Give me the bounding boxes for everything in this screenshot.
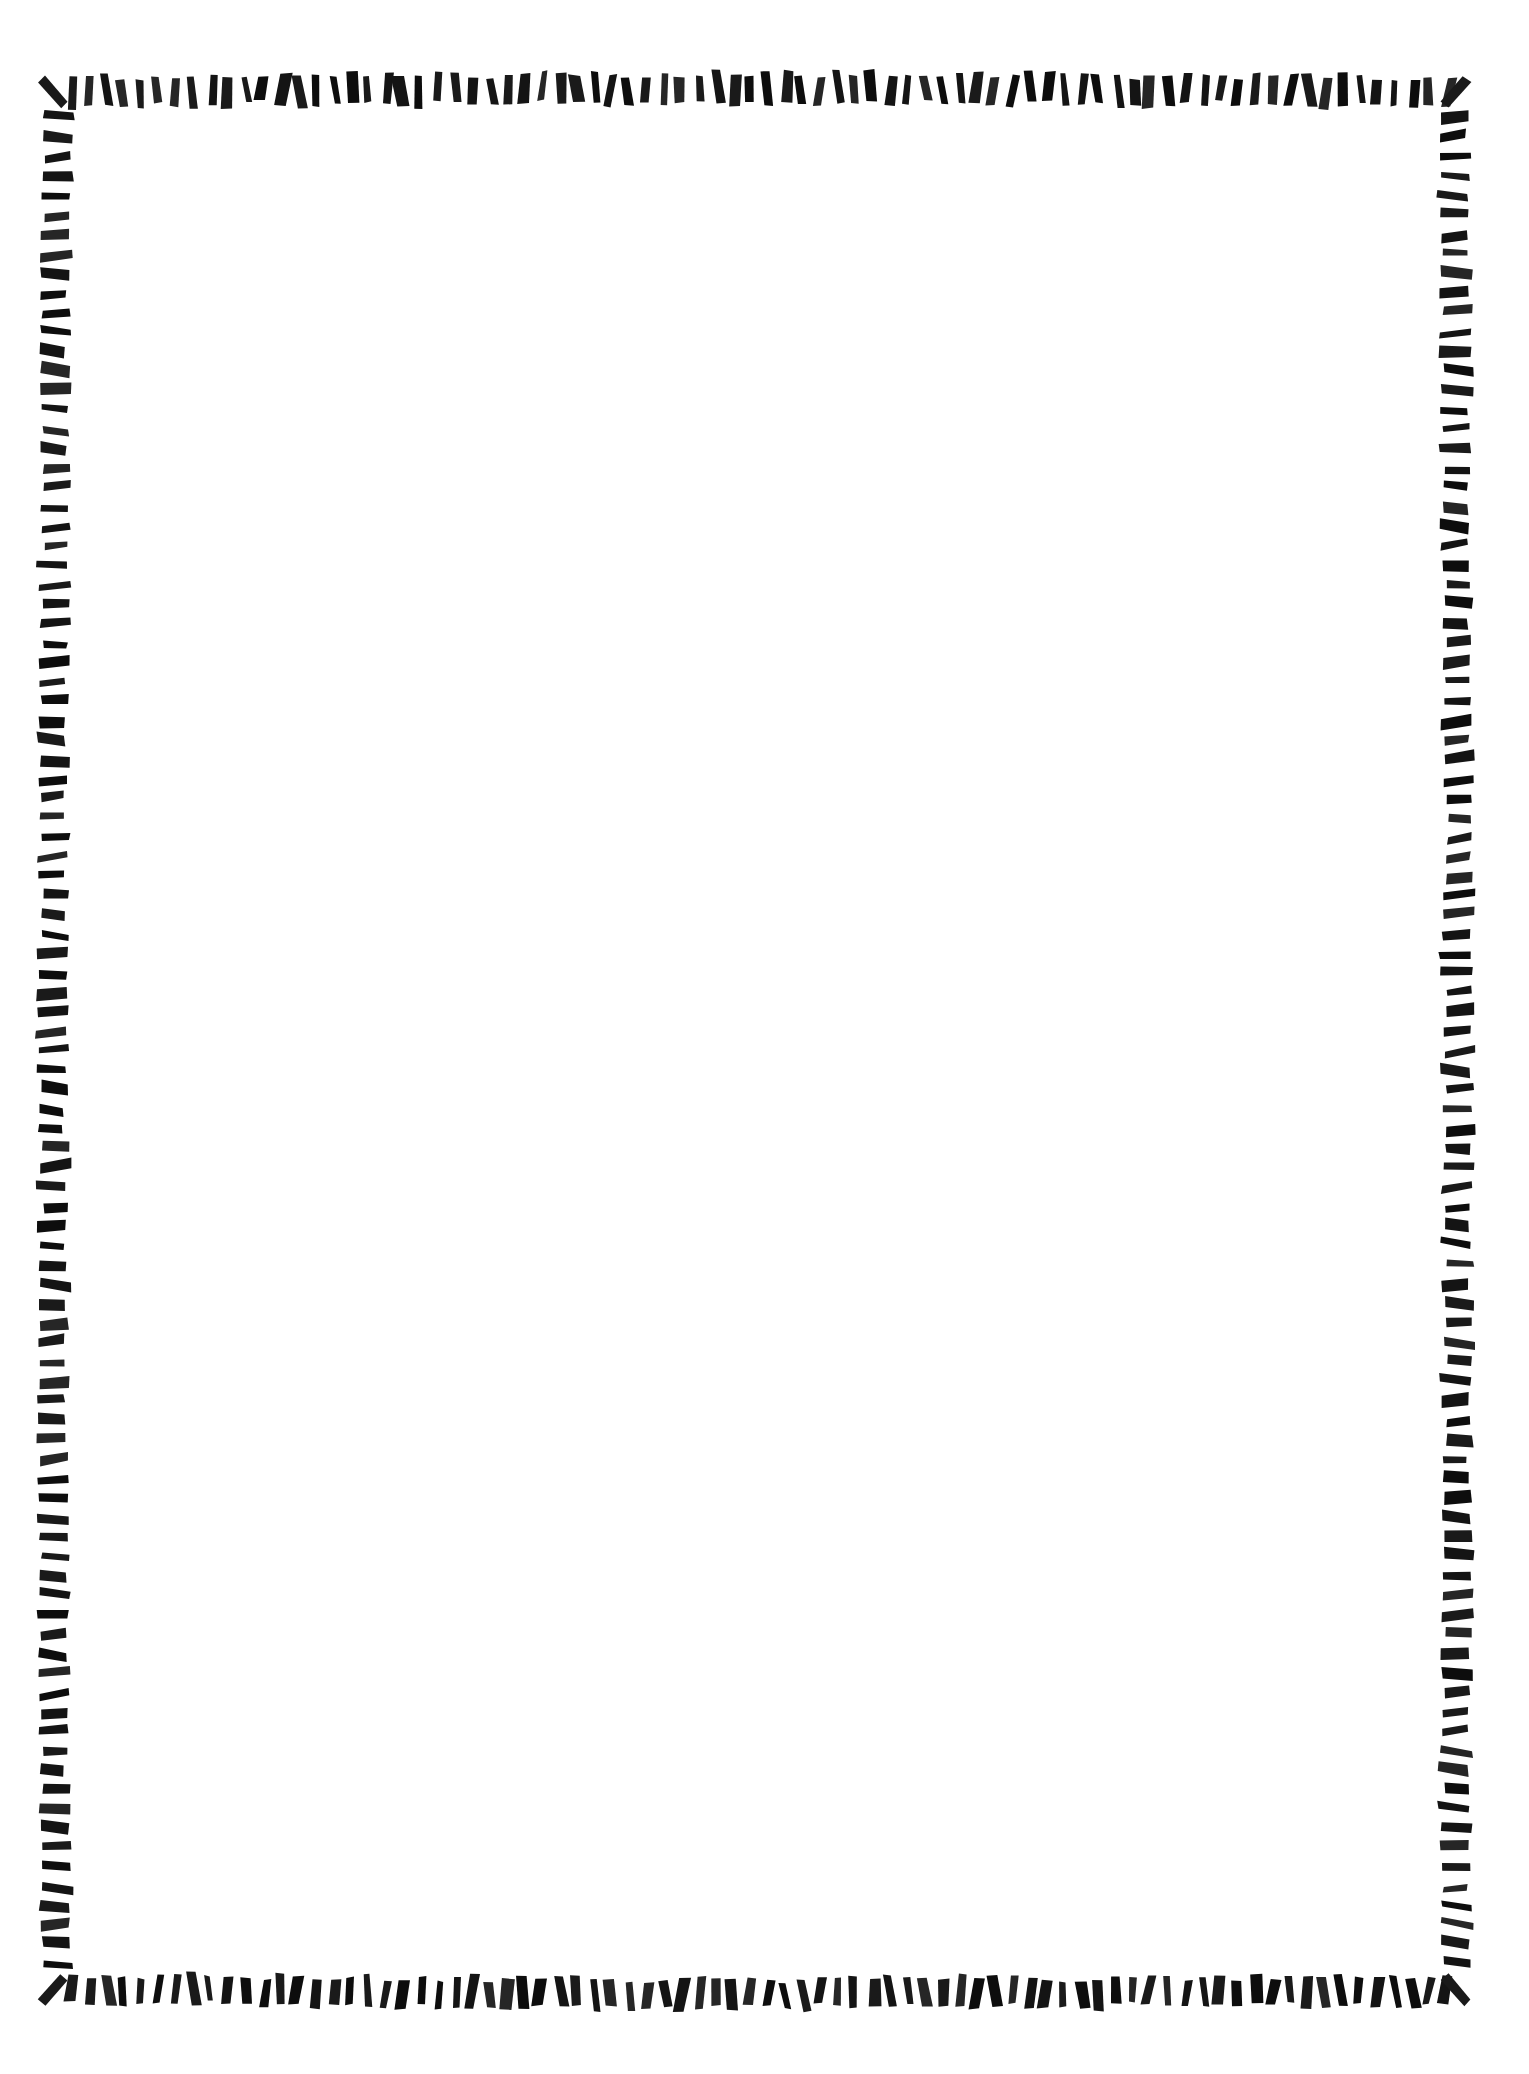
border-tick-mark (1440, 1840, 1469, 1850)
border-tick-mark (37, 947, 68, 960)
border-tick-mark (312, 75, 320, 107)
border-tick-mark (938, 1979, 950, 2007)
border-tick-mark (661, 73, 669, 105)
border-tick-mark (1445, 1782, 1470, 1794)
border-tick-mark (414, 76, 422, 110)
border-tick-mark (503, 75, 513, 105)
border-tick-mark (1444, 1530, 1472, 1542)
border-tick-mark (240, 1977, 252, 2004)
border-tick-mark (1268, 75, 1279, 105)
border-tick-mark (118, 1976, 127, 2006)
border-tick-mark (39, 1533, 68, 1542)
border-tick-mark (1445, 677, 1469, 683)
border-tick-mark (40, 505, 68, 512)
border-tick-mark (1447, 795, 1472, 805)
border-tick-mark (1446, 872, 1473, 885)
border-tick-mark (729, 74, 742, 106)
border-tick-mark (42, 1141, 69, 1152)
border-tick-mark (1443, 1572, 1471, 1581)
border-tick-mark (711, 1978, 720, 2006)
border-tick-mark (1391, 80, 1398, 106)
border-tick-mark (1444, 1163, 1475, 1170)
border-tick-mark (39, 1493, 69, 1502)
border-tick-mark (43, 171, 74, 181)
border-tick-mark (1439, 346, 1472, 359)
border-tick-mark (1446, 1434, 1474, 1448)
border-tick-mark (40, 756, 70, 768)
border-tick-mark (275, 1973, 284, 2004)
border-tick-mark (1443, 1105, 1472, 1112)
border-tick-mark (1446, 1317, 1472, 1327)
border-tick-mark (221, 77, 233, 109)
border-tick-mark (1440, 208, 1468, 218)
border-tick-mark (37, 1394, 65, 1403)
border-tick-mark (39, 1804, 71, 1815)
border-tick-mark (42, 1784, 70, 1794)
border-tick-mark (43, 1203, 68, 1214)
border-tick-mark (1438, 952, 1470, 960)
border-tick-mark (673, 77, 684, 104)
border-tick-mark (42, 1936, 70, 1948)
border-tick-mark (346, 71, 359, 103)
border-tick-mark (1440, 967, 1473, 976)
border-tick-mark (39, 970, 67, 980)
border-tick-mark (418, 1976, 427, 2004)
border-tick-mark (39, 717, 65, 729)
border-tick-mark (1442, 1863, 1470, 1871)
border-tick-mark (1444, 697, 1471, 705)
border-tick-mark (570, 1975, 581, 2006)
border-tick-mark (41, 833, 70, 841)
border-tick-mark (1443, 560, 1469, 572)
border-tick-mark (744, 76, 753, 102)
border-tick-mark (36, 1181, 66, 1191)
border-tick-mark (1439, 443, 1471, 454)
border-tick-mark (38, 871, 64, 879)
border-tick-mark (869, 1979, 882, 2007)
border-tick-mark (1443, 618, 1469, 630)
border-tick-mark (1443, 1456, 1467, 1463)
border-tick-mark (37, 1433, 66, 1443)
border-tick-mark (41, 1708, 67, 1720)
border-tick-mark (37, 1610, 69, 1619)
border-tick-mark (1444, 1490, 1472, 1505)
border-tick-mark (39, 1261, 67, 1272)
border-tick-mark (39, 1299, 65, 1311)
border-tick-mark (1338, 72, 1348, 106)
border-tick-mark (1059, 1982, 1066, 2008)
border-tick-mark (40, 812, 64, 819)
page-content-area (90, 125, 1435, 1960)
border-tick-mark (1443, 1470, 1469, 1483)
border-tick-mark (43, 599, 70, 609)
page-canvas (0, 0, 1529, 2074)
border-tick-mark (1129, 79, 1141, 106)
border-tick-mark (1445, 467, 1470, 475)
border-tick-mark (41, 694, 69, 704)
border-tick-mark (38, 1124, 62, 1133)
border-tick-mark (1370, 80, 1382, 105)
border-tick-mark (40, 1360, 65, 1367)
border-tick-mark (345, 1977, 354, 2006)
border-tick-mark (1250, 1974, 1263, 2004)
border-tick-mark (1441, 1648, 1470, 1661)
border-tick-mark (42, 1841, 71, 1850)
border-tick-mark (467, 78, 478, 105)
border-tick-mark (1231, 1981, 1242, 2007)
border-tick-mark (1092, 1980, 1104, 2012)
border-tick-mark (68, 76, 77, 110)
border-tick-mark (42, 193, 71, 200)
border-tick-mark (40, 382, 71, 395)
page-body-text (90, 125, 1435, 1960)
border-tick-mark (1445, 1627, 1471, 1638)
border-tick-mark (43, 1747, 67, 1756)
border-tick-mark (556, 72, 567, 103)
border-tick-mark (1142, 75, 1155, 109)
border-tick-mark (848, 1976, 857, 2009)
